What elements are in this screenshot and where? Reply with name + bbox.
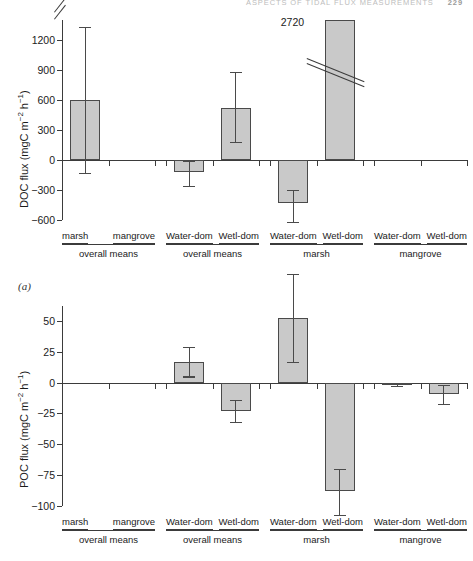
y-axis-tick [57,220,62,221]
x-axis-category-label: marsh [62,230,88,244]
x-axis-group: marshmangroveoverall means [62,230,155,259]
x-axis-category-label: Water-dom [166,230,213,244]
error-bar-cap [287,362,299,363]
x-axis-tick [166,160,167,166]
error-bar [293,190,294,222]
error-bar-cap [79,27,91,28]
x-axis-group-rule [270,530,363,531]
x-axis-group-label: overall means [62,248,155,259]
x-axis-group-label: marsh [270,534,363,545]
error-bar [443,385,444,404]
error-bar-cap [230,400,242,401]
bar [325,20,355,160]
running-head-page-number: 229 [448,0,463,7]
error-bar-cap [391,386,403,387]
x-axis-category-label: mangrove [113,230,155,244]
x-axis-group-rule [374,530,467,531]
y-axis-tick [57,352,62,353]
poc-plot-area: 50250−25−50−75−100 [62,306,467,506]
x-axis-group-label: marsh [270,248,363,259]
error-bar [189,347,190,377]
error-bar-cap [230,72,242,73]
error-bar-cap [79,173,91,174]
x-axis-category-label: Water-dom [270,230,317,244]
x-axis-group: Water-domWetl-domoverall means [166,230,259,259]
running-head-title: ASPECTS OF TIDAL FLUX MEASUREMENTS [246,0,434,7]
error-bar-cap [183,186,195,187]
error-bar [293,274,294,362]
x-axis-tick [109,160,110,166]
x-axis-category-label: Wetl-dom [323,516,363,530]
doc-y-axis [62,20,63,220]
x-axis-category-label: Water-dom [374,516,421,530]
y-axis-tick [57,40,62,41]
x-axis-tick [363,160,364,166]
doc-plot-area: 12009006003000−300−6002720 [62,20,467,220]
y-axis-tick [57,100,62,101]
x-axis-tick [270,383,271,389]
x-axis-tick [213,383,214,389]
x-axis-tick [363,383,364,389]
x-axis-tick [155,383,156,389]
error-bar [235,72,236,142]
x-axis-group: Water-domWetl-dommarsh [270,230,363,259]
x-axis-tick [374,383,375,389]
x-axis-tick [467,160,468,166]
x-axis-tick [109,383,110,389]
y-axis-tick-label: −100 [31,501,55,512]
y-axis-tick [57,190,62,191]
x-axis-tick [421,383,422,389]
x-axis-group: Water-domWetl-dommangrove [374,230,467,259]
bar-break-icon [307,58,367,84]
error-bar-cap [391,383,403,384]
y-axis-tick-label: 300 [37,125,55,136]
x-axis-tick [213,160,214,166]
x-axis-tick [421,160,422,166]
y-axis-tick [57,506,62,507]
poc-y-axis [62,306,63,506]
y-axis-tick-label: 1200 [32,35,55,46]
error-bar-cap [183,161,195,162]
error-bar-cap [230,422,242,423]
x-axis-group: marshmangroveoverall means [62,516,155,545]
x-axis-tick [259,383,260,389]
panel-letter-a: (a) [18,280,31,292]
error-bar-cap [334,469,346,470]
x-axis-group-rule [270,244,363,245]
x-axis-category-label: Wetl-dom [427,516,467,530]
x-axis-group-label: mangrove [374,248,467,259]
y-axis-tick [57,70,62,71]
y-axis-tick-label: 900 [37,65,55,76]
x-axis-category-label: Wetl-dom [427,230,467,244]
y-axis-tick-label: −50 [37,439,55,450]
x-axis-group-label: overall means [62,534,155,545]
y-axis-tick [57,444,62,445]
y-axis-tick-label: 25 [43,346,55,357]
error-bar-cap [183,376,195,377]
error-bar-cap [438,404,450,405]
x-axis-group-rule [62,530,155,531]
error-bar-cap [230,142,242,143]
y-axis-tick-label: −300 [31,185,55,196]
error-bar-cap [183,347,195,348]
x-axis-tick [62,383,63,389]
y-axis-tick-label: −600 [31,215,55,226]
y-axis-tick [57,413,62,414]
x-axis-group-rule [374,244,467,245]
x-axis-category-label: mangrove [113,516,155,530]
x-axis-tick [62,160,63,166]
x-axis-tick [155,160,156,166]
y-axis-tick-label: 600 [37,95,55,106]
error-bar-cap [287,222,299,223]
x-axis-category-label: Wetl-dom [219,516,259,530]
error-bar-cap [438,385,450,386]
y-axis-tick-label: 0 [49,377,55,388]
x-axis-group-label: overall means [166,248,259,259]
running-head: ASPECTS OF TIDAL FLUX MEASUREMENTS229 [246,0,463,7]
x-axis-category-label: Water-dom [270,516,317,530]
zero-baseline [62,160,467,161]
x-axis-group-rule [62,244,155,245]
x-axis-tick [166,383,167,389]
poc-flux-panel: POC flux (mgC m−2 h−1) 50250−25−50−75−10… [0,292,473,561]
y-axis-tick [57,475,62,476]
